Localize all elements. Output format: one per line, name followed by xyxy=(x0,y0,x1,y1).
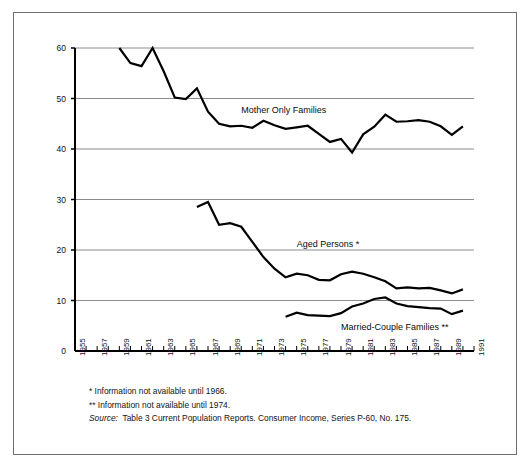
x-axis-tick-label: 1961 xyxy=(145,338,153,356)
notes-block: * Information not available until 1966. … xyxy=(89,385,509,426)
x-axis-tick-label: 1975 xyxy=(300,338,308,356)
x-axis-tick-label: 1971 xyxy=(256,338,264,356)
y-axis-tick-label: 30 xyxy=(44,196,66,205)
chart-canvas xyxy=(14,13,518,373)
x-axis-tick-label: 1959 xyxy=(123,338,131,356)
chart-figure-frame: 0102030405060 19551957195919611963196519… xyxy=(13,12,517,455)
source-text: Table 3 Current Population Reports. Cons… xyxy=(123,413,412,423)
y-axis-tick-label: 10 xyxy=(44,297,66,306)
x-axis-tick-label: 1967 xyxy=(212,338,220,356)
source-label: Source: xyxy=(89,413,118,423)
footnote-one: * Information not available until 1966. xyxy=(89,385,509,399)
x-axis-tick-label: 1955 xyxy=(79,338,87,356)
series-annotation-label: Married-Couple Families ** xyxy=(341,323,449,332)
x-axis-tick-label: 1979 xyxy=(345,338,353,356)
plot-area: 0102030405060 19551957195919611963196519… xyxy=(14,13,518,373)
x-axis-tick-label: 1965 xyxy=(189,338,197,356)
x-axis-tick-label: 1989 xyxy=(455,338,463,356)
footnote-two: ** Information not available until 1974. xyxy=(89,399,509,413)
series-line xyxy=(119,48,463,153)
y-axis-tick-label: 20 xyxy=(44,246,66,255)
x-axis-tick-label: 1977 xyxy=(322,338,330,356)
y-axis-tick-label: 50 xyxy=(44,95,66,104)
x-axis-tick-label: 1991 xyxy=(478,338,486,356)
x-axis-tick-label: 1985 xyxy=(411,338,419,356)
x-axis-tick-label: 1957 xyxy=(101,338,109,356)
series-lines-group xyxy=(119,48,463,317)
series-annotation-label: Mother Only Families xyxy=(241,106,326,115)
y-axis-tick-label: 0 xyxy=(44,347,66,356)
x-axis-tick-label: 1963 xyxy=(167,338,175,356)
x-axis-tick-label: 1987 xyxy=(433,338,441,356)
x-axis-tick-label: 1981 xyxy=(367,338,375,356)
source-line: Source: Table 3 Current Population Repor… xyxy=(89,412,509,426)
y-axis-tick-label: 40 xyxy=(44,145,66,154)
series-annotation-label: Aged Persons * xyxy=(297,240,360,249)
x-axis-tick-label: 1983 xyxy=(389,338,397,356)
y-axis-tick-label: 60 xyxy=(44,44,66,53)
x-axis-tick-label: 1973 xyxy=(278,338,286,356)
gridlines-group xyxy=(71,48,474,301)
x-axis-tick-label: 1969 xyxy=(234,338,242,356)
